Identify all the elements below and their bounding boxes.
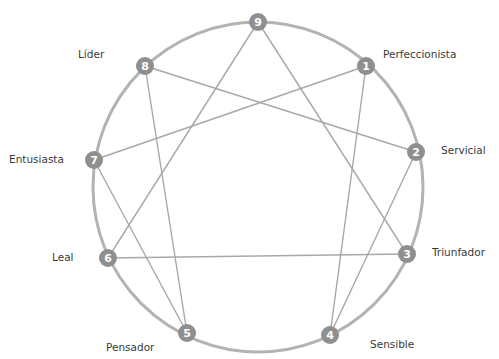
edge-7-1 — [94, 66, 366, 160]
label-entusiasta: Entusiasta — [9, 153, 64, 165]
edge-1-4 — [330, 66, 366, 335]
edge-6-9 — [108, 22, 258, 258]
label-pensador: Pensador — [106, 341, 154, 353]
nodes: 912345678 — [85, 13, 425, 344]
node-1: 1 — [357, 57, 375, 75]
node-number: 3 — [403, 248, 411, 261]
node-5: 5 — [178, 324, 196, 342]
node-7: 7 — [85, 151, 103, 169]
label-perfeccionista: Perfeccionista — [383, 48, 456, 60]
edge-3-6 — [108, 254, 407, 258]
node-4: 4 — [321, 326, 339, 344]
node-6: 6 — [99, 249, 117, 267]
node-number: 6 — [104, 252, 112, 265]
node-9: 9 — [249, 13, 267, 31]
node-number: 8 — [141, 60, 149, 73]
edge-2-8 — [145, 66, 416, 152]
node-number: 1 — [362, 60, 370, 73]
label-sensible: Sensible — [370, 338, 414, 350]
label-triunfador: Triunfador — [432, 246, 485, 258]
node-2: 2 — [407, 143, 425, 161]
node-number: 2 — [412, 146, 420, 159]
label-servicial: Servicial — [441, 144, 486, 156]
node-3: 3 — [398, 245, 416, 263]
node-number: 9 — [254, 16, 262, 29]
node-number: 5 — [183, 327, 191, 340]
node-number: 7 — [90, 154, 98, 167]
node-8: 8 — [136, 57, 154, 75]
label-lider: Líder — [78, 48, 104, 60]
label-leal: Leal — [52, 251, 73, 263]
node-number: 4 — [326, 329, 334, 342]
